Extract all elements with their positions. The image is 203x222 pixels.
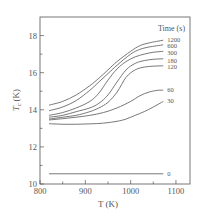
svg-text:Tc(K): Tc(K)	[11, 89, 22, 111]
series-label-0: 0	[167, 170, 170, 177]
series-label-30: 30	[167, 97, 174, 104]
x-tick-label: 1100	[168, 186, 185, 196]
series-line-180	[49, 59, 163, 117]
series-label-600: 600	[167, 42, 177, 49]
y-tick-label: 18	[29, 31, 38, 41]
x-axis-title: T (K)	[98, 199, 118, 209]
series-line-1200	[49, 40, 163, 105]
series-line-30	[49, 101, 163, 124]
x-axis: 80090010001100	[34, 180, 185, 196]
y-axis-title-unit: (K)	[11, 89, 21, 102]
series-lines	[49, 40, 163, 174]
x-tick-label: 900	[79, 186, 92, 196]
x-tick-label: 1000	[122, 186, 139, 196]
y-tick-label: 16	[29, 68, 38, 78]
y-tick-label: 14	[29, 105, 38, 115]
series-line-600	[49, 45, 163, 111]
y-tick-label: 10	[29, 179, 38, 189]
series-line-60	[49, 90, 163, 120]
series-label-300: 300	[167, 49, 177, 56]
chart: 80090010001100 1012141618 12006003001801…	[0, 0, 203, 222]
series-labels: 120060030018012060300	[167, 36, 180, 177]
y-tick-label: 12	[29, 142, 38, 152]
series-label-120: 120	[167, 63, 177, 70]
series-label-60: 60	[167, 86, 174, 93]
legend-title: Time (s)	[158, 24, 185, 33]
y-axis-title: Tc(K)	[11, 89, 22, 111]
y-axis-title-sub: c	[16, 103, 22, 106]
y-axis: 1012141618	[29, 31, 45, 189]
